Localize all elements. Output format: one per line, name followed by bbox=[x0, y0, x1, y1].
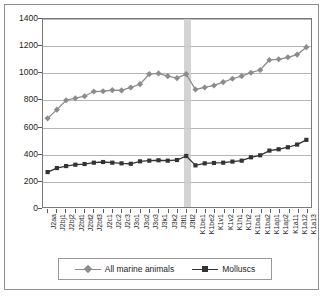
x-axis-tick-label: K1v1 bbox=[217, 214, 224, 230]
x-axis-tick-label: K1h2 bbox=[245, 214, 252, 230]
plot-area bbox=[42, 18, 312, 208]
square-marker-icon bbox=[230, 160, 234, 164]
square-marker-icon bbox=[92, 161, 96, 165]
diamond-marker-icon bbox=[128, 84, 134, 90]
x-axis-tick-label: J2bt2 bbox=[87, 214, 94, 231]
x-axis-tick bbox=[307, 209, 308, 213]
square-marker-icon bbox=[258, 153, 262, 157]
x-axis-tick bbox=[112, 209, 113, 213]
legend-label-all-marine-animals: All marine animals bbox=[105, 264, 174, 274]
diamond-marker-icon bbox=[118, 87, 124, 93]
diamond-marker-icon bbox=[183, 71, 189, 77]
x-axis-tick-label: J3tl2 bbox=[189, 214, 196, 229]
y-axis: 0200400600800100012001400 bbox=[0, 18, 38, 208]
y-axis-tick-label: 1200 bbox=[4, 41, 38, 49]
diamond-marker-icon bbox=[276, 56, 282, 62]
x-axis-tick bbox=[298, 209, 299, 213]
square-marker-icon bbox=[249, 155, 253, 159]
y-axis-tick-label: 200 bbox=[4, 177, 38, 185]
square-marker-icon bbox=[64, 164, 68, 168]
square-marker-icon bbox=[73, 163, 77, 167]
x-axis-tick-label: K1be2 bbox=[208, 214, 215, 234]
square-marker-icon bbox=[129, 162, 133, 166]
square-marker-icon bbox=[138, 159, 142, 163]
diamond-marker-icon bbox=[82, 93, 88, 99]
x-axis-tick bbox=[158, 209, 159, 213]
x-axis-tick-label: K1be1 bbox=[199, 214, 206, 234]
diamond-marker-icon bbox=[72, 95, 78, 101]
diamond-marker-icon bbox=[211, 82, 217, 88]
square-marker-icon bbox=[240, 159, 244, 163]
series-all-marine-animals bbox=[45, 44, 310, 121]
x-axis-tick-label: J3o2 bbox=[143, 214, 150, 229]
chart-legend: All marine animals Molluscs bbox=[58, 258, 272, 280]
square-marker-icon bbox=[83, 162, 87, 166]
x-axis-tick-label: J3k2 bbox=[171, 214, 178, 229]
x-axis-tick-label: K1a12 bbox=[301, 214, 308, 234]
legend-swatch-molluscs bbox=[192, 265, 218, 274]
diamond-marker-icon bbox=[155, 70, 161, 76]
square-marker-icon bbox=[221, 161, 225, 165]
square-marker-icon bbox=[203, 161, 207, 165]
x-axis-tick bbox=[65, 209, 66, 213]
x-axis-tick-label: J2bj1 bbox=[59, 214, 66, 231]
square-marker-icon bbox=[101, 160, 105, 164]
x-axis-tick bbox=[56, 209, 57, 213]
x-axis-tick bbox=[205, 209, 206, 213]
series-line bbox=[48, 140, 307, 172]
x-axis: J2aaJ2bj1J2bj2J2bt1J2bt2J2bt3J2c1J2c2J2c… bbox=[42, 209, 312, 251]
y-axis-tick-label: 1400 bbox=[4, 14, 38, 22]
x-axis-tick-label: K1ap2 bbox=[282, 214, 289, 234]
x-axis-tick bbox=[251, 209, 252, 213]
diamond-marker-icon bbox=[165, 73, 171, 79]
x-axis-tick bbox=[289, 209, 290, 213]
diamond-marker-icon bbox=[109, 87, 115, 93]
legend-label-molluscs: Molluscs bbox=[222, 264, 255, 274]
chart-figure: 0200400600800100012001400 J2aaJ2bj1J2bj2… bbox=[0, 0, 327, 296]
x-axis-tick-label: J2aa bbox=[50, 214, 57, 229]
x-axis-tick bbox=[196, 209, 197, 213]
y-axis-tick-label: 600 bbox=[4, 123, 38, 131]
diamond-marker-icon bbox=[100, 88, 106, 94]
x-axis-tick bbox=[75, 209, 76, 213]
square-marker-icon bbox=[46, 170, 50, 174]
y-axis-tick-label: 400 bbox=[4, 150, 38, 158]
legend-entry-all-marine-animals: All marine animals bbox=[75, 264, 174, 274]
x-axis-tick-label: K1a13 bbox=[310, 214, 317, 234]
square-marker-icon bbox=[267, 149, 271, 153]
x-axis-tick-label: J2c2 bbox=[115, 214, 122, 229]
square-marker-icon bbox=[147, 159, 151, 163]
square-marker-icon bbox=[184, 154, 188, 158]
x-axis-tick bbox=[149, 209, 150, 213]
x-axis-tick-label: J3o1 bbox=[133, 214, 140, 229]
square-marker-icon bbox=[175, 158, 179, 162]
series-molluscs bbox=[46, 138, 309, 174]
square-marker-icon bbox=[202, 266, 208, 272]
diamond-marker-icon bbox=[83, 265, 91, 273]
diamond-marker-icon bbox=[192, 86, 198, 92]
x-axis-tick bbox=[279, 209, 280, 213]
square-marker-icon bbox=[166, 159, 170, 163]
square-marker-icon bbox=[119, 161, 123, 165]
x-axis-tick bbox=[177, 209, 178, 213]
x-axis-tick bbox=[121, 209, 122, 213]
square-marker-icon bbox=[295, 142, 299, 146]
x-axis-tick bbox=[214, 209, 215, 213]
y-axis-tick-label: 800 bbox=[4, 95, 38, 103]
square-marker-icon bbox=[193, 163, 197, 167]
x-axis-tick bbox=[84, 209, 85, 213]
legend-entry-molluscs: Molluscs bbox=[192, 264, 255, 274]
x-axis-tick-label: K1ba1 bbox=[254, 214, 261, 234]
y-axis-tick-label: 0 bbox=[4, 204, 38, 212]
diamond-marker-icon bbox=[239, 73, 245, 79]
square-marker-icon bbox=[110, 161, 114, 165]
x-axis-tick bbox=[103, 209, 104, 213]
x-axis-tick bbox=[233, 209, 234, 213]
x-axis-tick-label: J3o3 bbox=[152, 214, 159, 229]
x-axis-tick bbox=[261, 209, 262, 213]
y-axis-tick-label: 1000 bbox=[4, 68, 38, 76]
square-marker-icon bbox=[55, 166, 59, 170]
x-axis-tick-label: J3tl1 bbox=[180, 214, 187, 229]
x-axis-tick-label: K1v2 bbox=[227, 214, 234, 230]
diamond-marker-icon bbox=[220, 79, 226, 85]
